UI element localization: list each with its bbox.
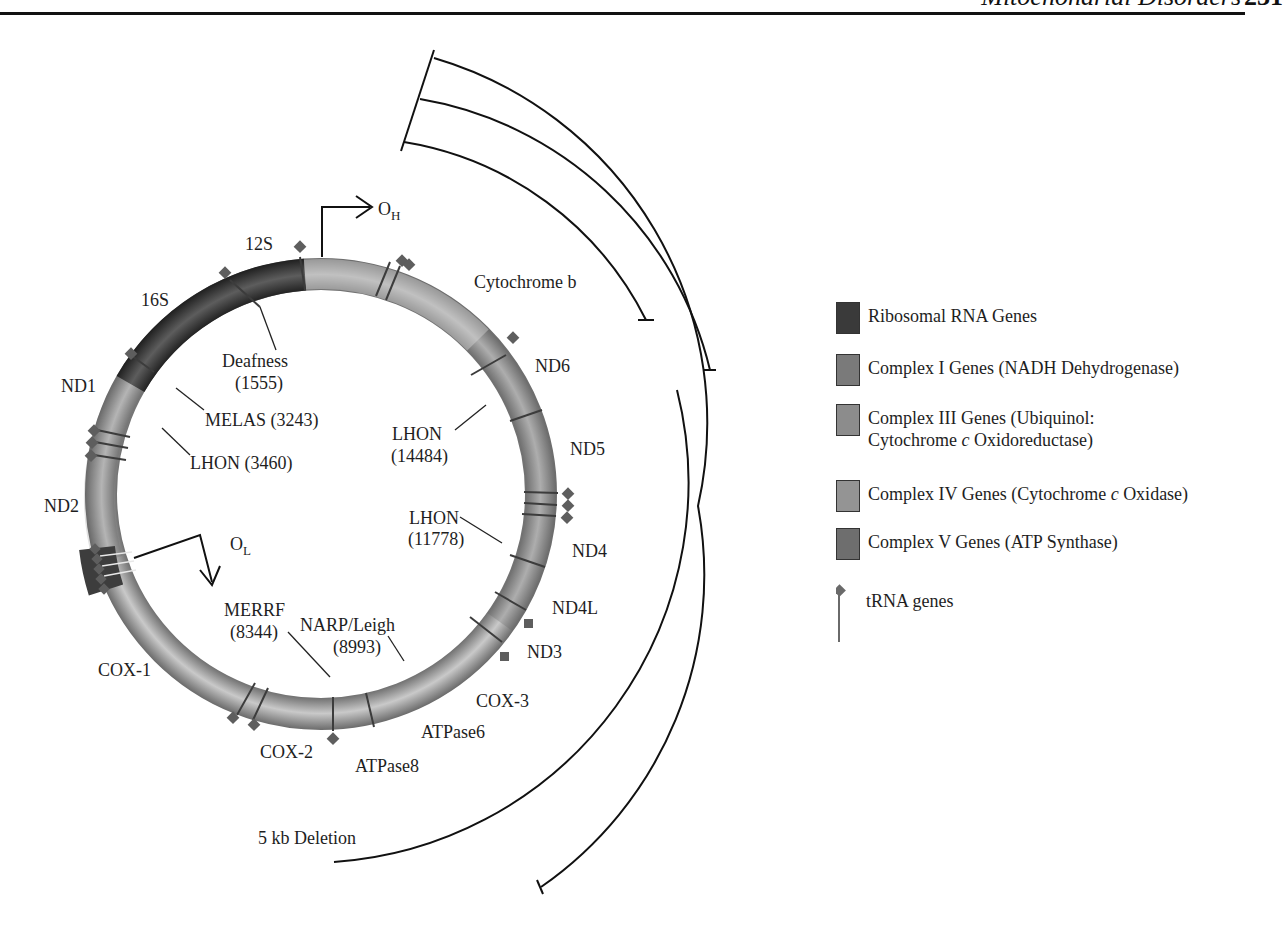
gene-label-nd3: ND3 xyxy=(527,642,562,662)
trna-icon xyxy=(561,511,574,524)
arc-outer xyxy=(434,58,707,887)
mutation-melas: MELAS (3243) xyxy=(205,410,319,431)
trna-markers xyxy=(85,240,575,745)
trna-icon xyxy=(500,652,509,661)
trna-icon xyxy=(327,732,340,745)
mutation-merrf: MERRF xyxy=(224,600,285,620)
trna-icon xyxy=(562,487,575,500)
mutation-lhon-14484-position: (14484) xyxy=(391,446,448,467)
legend-item-complex1: Complex I Genes (NADH Dehydrogenase) xyxy=(836,354,1179,386)
gene-label-nd4: ND4 xyxy=(572,541,607,561)
gene-label-16s: 16S xyxy=(141,290,169,310)
gene-label-nd6: ND6 xyxy=(535,356,570,376)
trna-legend-icon xyxy=(836,582,858,632)
mutation-lhon-14484: LHON xyxy=(392,424,442,444)
cytochrome-b-segment xyxy=(305,274,478,340)
legend-item-complex3: Complex III Genes (Ubiquinol: Cytochrome… xyxy=(836,404,1094,451)
mutation-lhon-11778-position: (11778) xyxy=(408,529,464,550)
gene-label-cox3: COX-3 xyxy=(476,691,529,711)
complex4-swatch-icon xyxy=(836,480,860,512)
mutation-deafness: Deafness xyxy=(222,351,288,371)
trna-icon xyxy=(524,619,533,628)
legend-item-trna: tRNA genes xyxy=(836,582,954,632)
complex3-swatch-icon xyxy=(836,404,860,436)
complex5-swatch-icon xyxy=(836,528,860,560)
gene-label-cox2: COX-2 xyxy=(260,742,313,762)
mutation-lhon-11778: LHON xyxy=(409,508,459,528)
mutation-narp-leigh-position: (8993) xyxy=(333,637,381,658)
legend-item-ribosomal: Ribosomal RNA Genes xyxy=(836,302,1037,334)
ol-arrow-icon xyxy=(134,535,220,585)
genome-ring xyxy=(99,274,541,714)
mutation-merrf-position: (8344) xyxy=(230,622,278,643)
mutation-lhon-3460: LHON (3460) xyxy=(190,453,292,474)
deletion-label: 5 kb Deletion xyxy=(258,828,356,848)
legend-item-complex5: Complex V Genes (ATP Synthase) xyxy=(836,528,1118,560)
gene-label-atpase6: ATPase6 xyxy=(421,722,485,742)
trna-icon xyxy=(294,240,307,253)
gene-labels: 12S 16S ND1 ND2 COX-1 COX-2 ATPase8 ATPa… xyxy=(44,234,607,776)
gene-label-nd4l: ND4L xyxy=(552,598,598,618)
complex1-left-segment xyxy=(99,384,131,560)
ol-label: OL xyxy=(230,534,251,558)
gene-label-12s: 12S xyxy=(245,234,273,254)
mtdna-map: 12S 16S ND1 ND2 COX-1 COX-2 ATPase8 ATPa… xyxy=(0,0,1287,937)
mutation-narp-leigh: NARP/Leigh xyxy=(300,615,395,635)
gene-label-cox1: COX-1 xyxy=(98,660,151,680)
complex1-swatch-icon xyxy=(836,354,860,386)
gene-label-nd1: ND1 xyxy=(61,376,96,396)
mutation-labels: Deafness (1555) MELAS (3243) LHON (3460)… xyxy=(190,351,464,658)
mutation-deafness-position: (1555) xyxy=(235,373,283,394)
oh-label: OH xyxy=(378,199,400,223)
trna-icon xyxy=(562,499,575,512)
gene-label-cytochrome-b: Cytochrome b xyxy=(474,272,576,292)
ribosomal-swatch-icon xyxy=(836,302,860,334)
oh-arrow-icon xyxy=(322,196,372,257)
legend-item-complex4: Complex IV Genes (Cytochrome c Oxidase) xyxy=(836,480,1188,512)
trna-icon xyxy=(507,331,520,344)
gene-label-nd2: ND2 xyxy=(44,496,79,516)
gene-label-nd5: ND5 xyxy=(570,439,605,459)
gene-label-atpase8: ATPase8 xyxy=(355,756,419,776)
complex1-right-segment xyxy=(478,340,541,622)
